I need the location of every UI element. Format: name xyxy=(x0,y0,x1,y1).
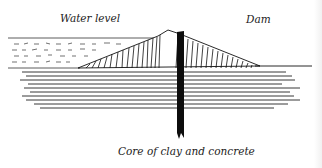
core-label: Core of clay and concrete xyxy=(118,145,255,157)
water-level-label: Water level xyxy=(60,12,120,24)
dam-label: Dam xyxy=(246,13,271,25)
clay-concrete-core xyxy=(177,31,184,139)
dam-body xyxy=(78,30,260,68)
dam-cross-section-diagram: Water level Dam Core of clay and concret… xyxy=(0,0,322,168)
diagram-drawing xyxy=(0,0,322,168)
foundation-strata xyxy=(20,72,300,108)
